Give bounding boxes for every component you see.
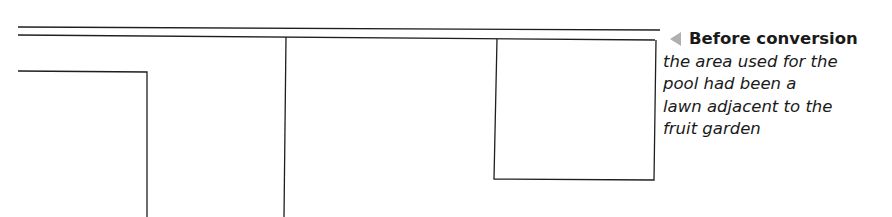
caption-line: fruit garden (663, 118, 892, 141)
caption-line: lawn adjacent to the (663, 96, 892, 119)
caption-title: Before conversion (689, 28, 858, 51)
lawn-area-outline (494, 39, 656, 180)
left-bed-outline (18, 71, 147, 217)
caption-line: the area used for the (663, 51, 892, 74)
left-pointer-icon (670, 32, 681, 46)
caption-title-row: Before conversion (663, 28, 892, 51)
boundary-line-inner (18, 35, 655, 40)
caption-body: the area used for the pool had been a la… (663, 51, 892, 141)
boundary-line-outer (18, 27, 660, 30)
figure-caption: Before conversion the area used for the … (663, 28, 892, 141)
site-plan-diagram (0, 0, 660, 217)
central-divider-line (284, 37, 286, 217)
caption-line: pool had been a (663, 73, 892, 96)
